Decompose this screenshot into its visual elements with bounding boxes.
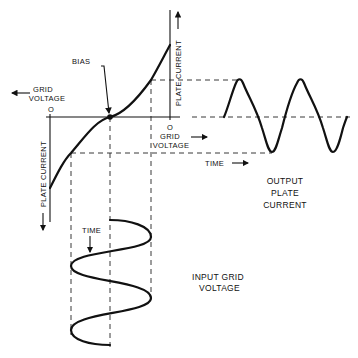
grid-voltage-left-label-1: GRID bbox=[33, 85, 53, 94]
time-output-label: TIME bbox=[205, 159, 224, 168]
projection-lines bbox=[71, 80, 350, 348]
output-plate-current-wave bbox=[224, 79, 347, 152]
zero-right-label: O bbox=[167, 123, 173, 132]
output-label-3: CURRENT bbox=[263, 200, 307, 210]
input-grid-voltage-wave bbox=[71, 220, 151, 345]
output-label-2: PLATE bbox=[271, 188, 299, 198]
plate-current-bottom-label: PLATE CURRENT bbox=[39, 141, 48, 207]
grid-voltage-right-label-2: VOLTAGE bbox=[153, 141, 189, 150]
grid-voltage-left-label-2: VOLTAGE bbox=[29, 94, 65, 103]
input-label-2: VOLTAGE bbox=[199, 283, 240, 293]
zero-left-label: O bbox=[48, 105, 54, 114]
bias-label: BIAS bbox=[72, 57, 90, 66]
bias-point bbox=[107, 114, 113, 120]
grid-voltage-right-label-1: GRID bbox=[160, 132, 180, 141]
time-input-label: TIME bbox=[82, 226, 101, 235]
plate-current-top-label: PLATE CURRENT bbox=[174, 40, 183, 106]
vacuum-tube-transfer-diagram: BIAS GRID VOLTAGE O O GRID VOLTAGE PLATE… bbox=[0, 0, 358, 358]
input-label-1: INPUT GRID bbox=[192, 272, 244, 282]
output-label-1: OUTPUT bbox=[267, 176, 304, 186]
bias-pointer bbox=[101, 66, 109, 113]
